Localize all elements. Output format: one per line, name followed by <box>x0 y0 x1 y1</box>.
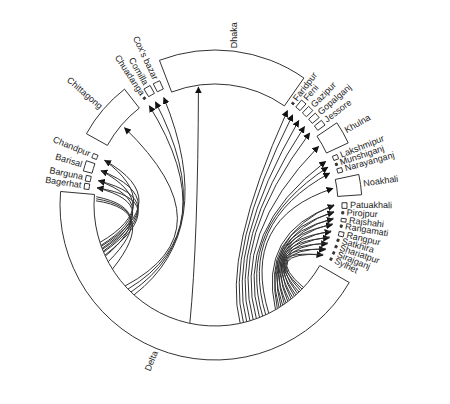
diagram-canvas: DeltaBagerhatBargunaBarisalChandpurChitt… <box>0 0 450 404</box>
node-arc-barisal <box>83 161 95 173</box>
node-arc-satkhira <box>337 239 340 242</box>
node-arc-dhaka <box>159 50 303 106</box>
node-arc-munshiganj <box>335 163 338 166</box>
node-arc-noakhali <box>335 174 361 196</box>
node-arc-chandpur <box>92 153 98 159</box>
node-label-chittagong: Chittagong <box>65 75 105 111</box>
node-label-noakhali: Noakhali <box>363 174 399 189</box>
flow-lines <box>96 87 334 323</box>
node-arc-delta <box>60 191 349 360</box>
flow-to-chuadanga <box>128 106 183 289</box>
flow-to-coxs_bazar <box>134 98 185 295</box>
node-arc-coxs_bazar <box>153 81 163 92</box>
flow-to-dhaka <box>190 87 199 323</box>
chord-diagram: DeltaBagerhatBargunaBarisalChandpurChitt… <box>0 0 450 404</box>
node-arc-bagerhat <box>84 183 90 189</box>
node-arc-jessore <box>314 120 325 130</box>
node-arc-sylhet <box>330 258 333 261</box>
node-arc-faridpur <box>291 102 294 105</box>
node-arc-chuadanga <box>143 97 146 100</box>
node-arc-narayanganj <box>337 168 343 174</box>
node-arc-sirajganj <box>332 252 335 255</box>
node-arc-shariatpur <box>335 245 338 248</box>
node-arc-gopalganj <box>309 113 320 123</box>
node-arc-pirojpur <box>342 212 344 214</box>
node-label-delta: Delta <box>143 349 160 372</box>
node-arc-rangamati <box>340 225 342 228</box>
node-label-dhaka: Dhaka <box>229 22 239 48</box>
node-arc-barguna <box>85 175 91 182</box>
node-arc-gazipur <box>302 106 312 116</box>
node-label-khulna: Khulna <box>343 112 372 135</box>
